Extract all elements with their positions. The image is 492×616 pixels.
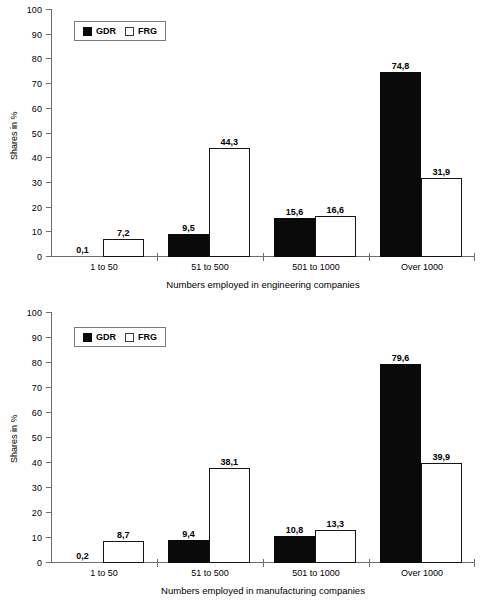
bar-frg-0: 8,7 xyxy=(103,541,144,563)
legend-label-gdr: GDR xyxy=(96,332,116,342)
legend: GDR FRG xyxy=(74,327,166,347)
x-axis-category-label: 51 to 500 xyxy=(157,262,263,272)
y-axis-tick xyxy=(46,537,52,538)
x-axis-tick xyxy=(157,559,158,567)
y-axis-label: 10 xyxy=(32,534,42,543)
bar-value-label: 9,4 xyxy=(182,529,195,539)
plot-area: 01020304050607080901000,19,515,674,87,24… xyxy=(51,10,475,257)
y-axis-label: 10 xyxy=(32,228,42,237)
x-axis-category-label: 501 to 1000 xyxy=(263,262,369,272)
bar-frg-2: 16,6 xyxy=(315,216,356,257)
bar-gdr-2: 15,6 xyxy=(274,218,315,257)
y-axis-label: 50 xyxy=(32,129,42,138)
y-axis-label: 40 xyxy=(32,154,42,163)
legend-entry-frg: FRG xyxy=(125,26,157,36)
y-axis-label: 100 xyxy=(27,6,42,15)
bar-value-label: 44,3 xyxy=(221,137,239,147)
y-axis-tick xyxy=(46,34,52,35)
y-axis-label: 60 xyxy=(32,104,42,113)
y-axis-label: 50 xyxy=(32,434,42,443)
y-axis-tick xyxy=(46,83,52,84)
legend-entry-gdr: GDR xyxy=(83,26,116,36)
x-axis-category-label: Over 1000 xyxy=(369,568,475,578)
bar-value-label: 8,7 xyxy=(117,530,130,540)
y-axis-tick xyxy=(46,133,52,134)
bar-gdr-2: 10,8 xyxy=(274,536,315,563)
x-axis-tick-end xyxy=(474,559,475,567)
bar-value-label: 74,8 xyxy=(392,61,410,71)
x-axis-category-label: 1 to 50 xyxy=(51,262,157,272)
y-axis-title: Shares in % xyxy=(10,111,19,160)
bar-frg-1: 38,1 xyxy=(209,468,250,563)
y-axis-label: 0 xyxy=(37,253,42,262)
bar-gdr-1: 9,4 xyxy=(168,540,209,564)
bar-value-label: 16,6 xyxy=(327,205,345,215)
bar-value-label: 10,8 xyxy=(286,525,304,535)
y-axis-label: 80 xyxy=(32,55,42,64)
legend-swatch-frg-icon xyxy=(125,333,134,342)
y-axis-tick xyxy=(46,337,52,338)
y-axis-tick xyxy=(46,387,52,388)
y-axis-label: 70 xyxy=(32,384,42,393)
legend-entry-gdr: GDR xyxy=(83,332,116,342)
y-axis-label: 100 xyxy=(27,309,42,318)
y-axis-label: 60 xyxy=(32,409,42,418)
x-axis-tick xyxy=(263,559,264,567)
y-axis-label: 90 xyxy=(32,334,42,343)
y-axis-tick xyxy=(46,487,52,488)
bar-value-label: 39,9 xyxy=(433,452,451,462)
y-axis-line xyxy=(51,313,52,563)
y-axis-tick xyxy=(46,437,52,438)
x-axis-tick xyxy=(369,253,370,261)
x-axis-title: Numbers employed in manufacturing compan… xyxy=(51,585,475,596)
bar-gdr-1: 9,5 xyxy=(168,234,209,257)
bar-value-label: 31,9 xyxy=(433,167,451,177)
bar-value-label: 79,6 xyxy=(392,353,410,363)
y-axis-tick xyxy=(46,157,52,158)
y-axis-label: 40 xyxy=(32,459,42,468)
chart-page: { "page": { "title": "Company size distr… xyxy=(0,0,492,616)
bar-frg-3: 31,9 xyxy=(421,178,462,257)
bar-frg-3: 39,9 xyxy=(421,463,462,563)
bar-value-label: 13,3 xyxy=(327,519,345,529)
legend-entry-frg: FRG xyxy=(125,332,157,342)
bar-value-label: 15,6 xyxy=(286,207,304,217)
bar-gdr-0: 0,1 xyxy=(62,256,103,257)
y-axis-label: 30 xyxy=(32,484,42,493)
legend-label-gdr: GDR xyxy=(96,26,116,36)
y-axis-tick xyxy=(46,182,52,183)
x-axis-tick xyxy=(369,559,370,567)
y-axis-tick xyxy=(46,58,52,59)
y-axis-tick xyxy=(46,108,52,109)
x-axis-category-label: Over 1000 xyxy=(369,262,475,272)
bar-gdr-3: 74,8 xyxy=(380,72,421,257)
legend-swatch-gdr-icon xyxy=(83,27,92,36)
y-axis-tick xyxy=(46,256,52,257)
bar-value-label: 0,1 xyxy=(76,245,89,255)
y-axis-tick xyxy=(46,312,52,313)
x-axis-tick xyxy=(263,253,264,261)
x-axis-title: Numbers employed in engineering companie… xyxy=(51,279,475,290)
bar-frg-2: 13,3 xyxy=(315,530,356,563)
y-axis-label: 20 xyxy=(32,203,42,212)
legend: GDR FRG xyxy=(74,21,166,41)
legend-swatch-frg-icon xyxy=(125,27,134,36)
y-axis-tick xyxy=(46,462,52,463)
chart-manufacturing: Shares in % Numbers employed in manufact… xyxy=(0,303,492,616)
y-axis-label: 90 xyxy=(32,30,42,39)
bar-gdr-3: 79,6 xyxy=(380,364,421,563)
legend-label-frg: FRG xyxy=(138,332,157,342)
legend-swatch-gdr-icon xyxy=(83,333,92,342)
x-axis-tick xyxy=(157,253,158,261)
x-axis-category-label: 1 to 50 xyxy=(51,568,157,578)
y-axis-title: Shares in % xyxy=(10,414,19,463)
y-axis-tick xyxy=(46,562,52,563)
y-axis-tick xyxy=(46,362,52,363)
y-axis-label: 0 xyxy=(37,559,42,568)
y-axis-label: 20 xyxy=(32,509,42,518)
y-axis-tick xyxy=(46,412,52,413)
y-axis-tick xyxy=(46,9,52,10)
plot-area: 01020304050607080901000,29,410,879,68,73… xyxy=(51,313,475,563)
y-axis-label: 70 xyxy=(32,80,42,89)
chart-engineering: Shares in % Numbers employed in engineer… xyxy=(0,0,492,300)
